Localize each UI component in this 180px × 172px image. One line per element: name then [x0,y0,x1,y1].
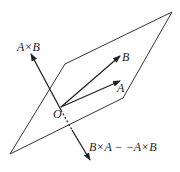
plane [10,12,172,154]
vector-b [61,56,120,107]
vector-a [61,81,120,107]
vector-bxa-hidden [61,110,72,130]
label-origin: O [53,108,62,120]
vector-bxa [72,130,90,160]
label-axb: A×B [17,41,40,53]
cross-product-diagram: A×B B A O B×A − −A×B [0,0,180,172]
label-b: B [122,51,129,63]
vector-axb [31,54,61,110]
label-bxa: B×A − −A×B [89,141,157,153]
label-a: A [117,82,124,94]
